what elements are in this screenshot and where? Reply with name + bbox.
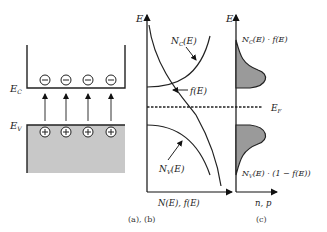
b-y-label: E	[135, 13, 144, 24]
hole-density-peak	[236, 125, 266, 175]
fermi-curve	[149, 25, 221, 186]
caption-ab: (a), (b)	[128, 215, 155, 224]
band-diagram: EC EV E NC(E) f(E)	[0, 0, 327, 232]
excitation-arrows	[45, 94, 111, 121]
electron-density-peak	[236, 40, 266, 88]
fe-label: f(E)	[189, 86, 207, 96]
nc-label: NC(E)	[170, 36, 197, 47]
electrons	[40, 75, 116, 85]
c-bottom-label: NV(E) · (1 − f(E))	[241, 169, 311, 179]
b-x-label: N(E), f(E)	[157, 198, 200, 208]
c-top-label: NC(E) · f(E)	[241, 35, 288, 45]
nv-label: NV(E)	[158, 164, 185, 175]
panel-c: E NC(E) · f(E) EF NV(E) · (1 − f(E)) n, …	[225, 13, 311, 208]
ec-label: EC	[9, 83, 22, 95]
ef-label: EF	[270, 103, 282, 114]
c-x-label: n, p	[255, 198, 272, 208]
ev-label: EV	[9, 120, 22, 132]
caption-c: (c)	[256, 215, 267, 224]
c-y-label: E	[225, 13, 234, 24]
panel-a: EC EV	[9, 45, 125, 173]
